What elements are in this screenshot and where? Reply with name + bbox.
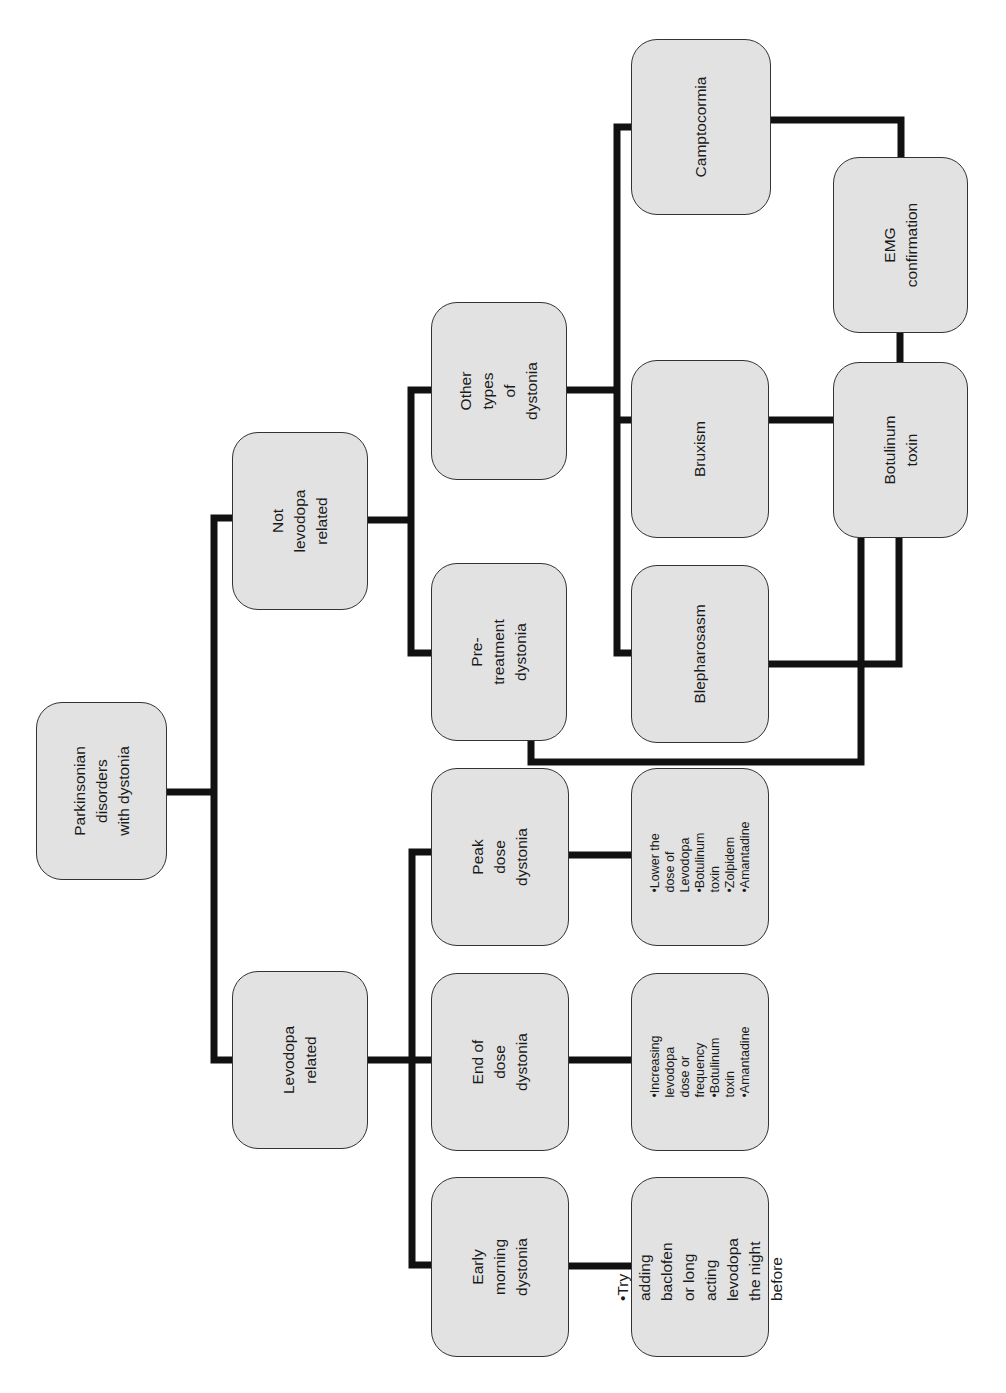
flowchart: Parkinsonian disorders with dystonia Lev… [0, 0, 1006, 1393]
node-label: Levodopa related [278, 1026, 322, 1094]
node-not-levodopa-related: Not levodopa related [232, 432, 368, 610]
connector-levodopa-branches [412, 852, 432, 1265]
node-label: •Increasing levodopa dose or frequency •… [648, 1026, 753, 1097]
node-label: Not levodopa related [267, 488, 333, 555]
node-blepharospasm: Blepharosasm [631, 565, 769, 743]
node-label: End of dose dystonia [467, 1028, 533, 1096]
node-label: Blepharosasm [689, 604, 711, 703]
node-label: •Lower the dose of Levodopa •Botulinum t… [648, 821, 753, 892]
node-label: Camptocormia [690, 77, 712, 178]
node-label: EMG confirmation [879, 203, 923, 287]
node-label: •Try adding baclofen or long acting levo… [612, 1233, 788, 1301]
node-label: Bruxism [689, 421, 711, 477]
node-label: Early morning dystonia [467, 1233, 533, 1301]
node-other-types-of-dystonia: Other types of dystonia [431, 302, 567, 480]
node-label: Botulinum toxin [879, 416, 923, 485]
node-pre-treatment-dystonia: Pre-treatment dystonia [431, 563, 567, 741]
node-root: Parkinsonian disorders with dystonia [36, 702, 167, 880]
node-label: Other types of dystonia [455, 358, 543, 425]
node-early-morning-dystonia: Early morning dystonia [431, 1177, 569, 1357]
node-bruxism: Bruxism [631, 360, 769, 538]
node-label: Pre-treatment dystonia [466, 619, 532, 686]
node-end-of-dose-treatment: •Increasing levodopa dose or frequency •… [631, 973, 769, 1151]
connector-root-branches [214, 518, 234, 1060]
node-peak-dose-treatment: •Lower the dose of Levodopa •Botulinum t… [631, 768, 769, 946]
connector-camptocormia-emg [768, 120, 901, 157]
node-emg-confirmation: EMG confirmation [833, 157, 968, 333]
node-camptocormia: Camptocormia [631, 39, 771, 215]
node-levodopa-related: Levodopa related [232, 971, 368, 1149]
node-peak-dose-dystonia: Peak dose dystonia [431, 768, 569, 946]
node-early-morning-treatment: •Try adding baclofen or long acting levo… [631, 1177, 769, 1357]
node-label: Peak dose dystonia [467, 823, 533, 891]
node-botulinum-toxin: Botulinum toxin [833, 362, 968, 538]
node-end-of-dose-dystonia: End of dose dystonia [431, 973, 569, 1151]
connector-blepharospasm-botulinum [768, 538, 899, 664]
node-label: Parkinsonian disorders with dystonia [69, 746, 135, 836]
connector-not-levodopa-branches [411, 390, 432, 653]
